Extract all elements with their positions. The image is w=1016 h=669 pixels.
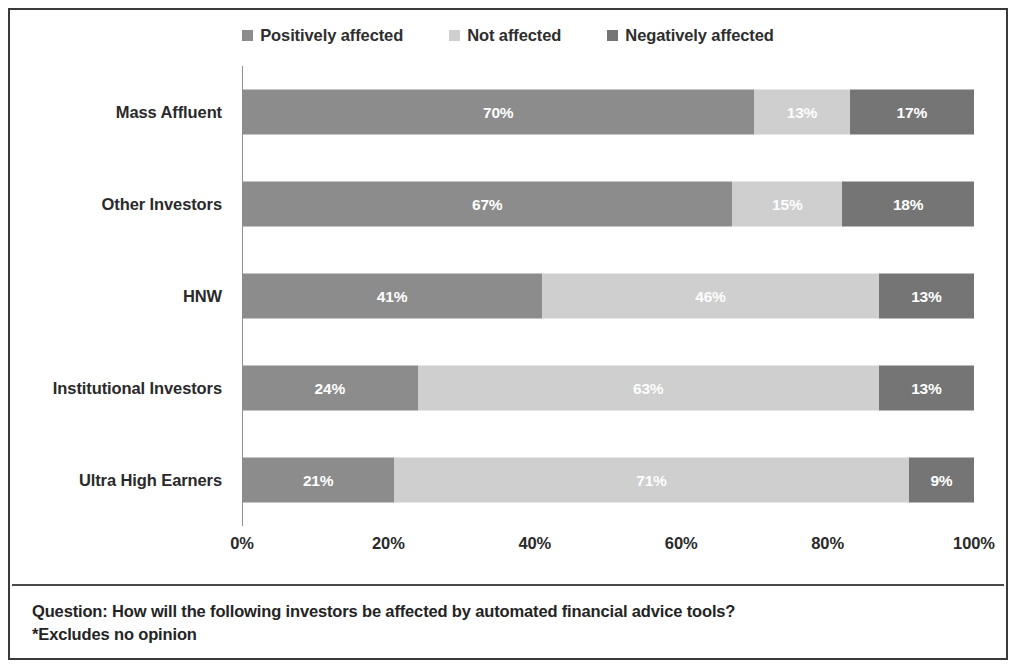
footer-question: Question: How will the following investo…	[32, 600, 986, 623]
bar-segment-value-label: 24%	[315, 379, 345, 397]
legend-swatch-positively-affected	[242, 30, 253, 41]
bar-row: 21%71%9%	[242, 434, 974, 526]
category-label-cell: Mass Affluent	[24, 66, 234, 158]
x-axis-tick-label: 40%	[518, 534, 551, 553]
bar-segment-value-label: 63%	[633, 379, 663, 397]
x-axis-tick-label: 20%	[372, 534, 405, 553]
bar-segment-positively-affected[interactable]: 70%	[242, 90, 754, 135]
bar-segment-not-affected[interactable]: 15%	[732, 182, 842, 227]
legend-item-not-affected[interactable]: Not affected	[449, 26, 561, 45]
legend-label-negatively-affected: Negatively affected	[625, 26, 774, 45]
bar-segment-value-label: 21%	[303, 471, 333, 489]
x-axis-tick-label: 80%	[811, 534, 844, 553]
category-label: HNW	[183, 287, 222, 306]
bar-segment-not-affected[interactable]: 46%	[542, 274, 879, 319]
bar-segment-value-label: 9%	[930, 471, 952, 489]
x-axis-tick-label: 0%	[230, 534, 254, 553]
category-label-cell: HNW	[24, 250, 234, 342]
category-label: Institutional Investors	[53, 379, 222, 398]
x-axis-tick-labels: 0%20%40%60%80%100%	[242, 534, 974, 564]
category-label-cell: Other Investors	[24, 158, 234, 250]
bar-segment-negatively-affected[interactable]: 13%	[879, 366, 974, 411]
plot-area: 70%13%17%67%15%18%41%46%13%24%63%13%21%7…	[242, 66, 974, 526]
bar-segment-value-label: 15%	[772, 195, 802, 213]
chart-frame: Positively affected Not affected Negativ…	[8, 8, 1008, 660]
legend-label-positively-affected: Positively affected	[260, 26, 403, 45]
bar-segment-not-affected[interactable]: 13%	[754, 90, 849, 135]
bar-segment-value-label: 13%	[911, 379, 941, 397]
stacked-bar: 70%13%17%	[242, 90, 974, 135]
bar-segment-value-label: 70%	[483, 103, 513, 121]
bar-segment-not-affected[interactable]: 63%	[418, 366, 879, 411]
bar-segment-value-label: 13%	[911, 287, 941, 305]
bar-segment-negatively-affected[interactable]: 13%	[879, 274, 974, 319]
legend-swatch-not-affected	[449, 30, 460, 41]
bar-rows: 70%13%17%67%15%18%41%46%13%24%63%13%21%7…	[242, 66, 974, 526]
bar-row: 70%13%17%	[242, 66, 974, 158]
legend-item-negatively-affected[interactable]: Negatively affected	[607, 26, 774, 45]
bar-segment-value-label: 13%	[787, 103, 817, 121]
bar-segment-value-label: 71%	[636, 471, 666, 489]
bar-row: 41%46%13%	[242, 250, 974, 342]
category-label-cell: Ultra High Earners	[24, 434, 234, 526]
bar-segment-value-label: 67%	[472, 195, 502, 213]
category-label: Mass Affluent	[116, 103, 222, 122]
y-axis-category-labels: Mass AffluentOther InvestorsHNWInstituti…	[24, 66, 234, 526]
footer-note: *Excludes no opinion	[32, 623, 986, 646]
bar-segment-positively-affected[interactable]: 21%	[242, 458, 394, 503]
stacked-bar: 41%46%13%	[242, 274, 974, 319]
category-label: Other Investors	[102, 195, 222, 214]
stacked-bar: 67%15%18%	[242, 182, 974, 227]
bar-segment-positively-affected[interactable]: 41%	[242, 274, 542, 319]
bar-segment-negatively-affected[interactable]: 18%	[842, 182, 974, 227]
stacked-bar: 21%71%9%	[242, 458, 974, 503]
legend-label-not-affected: Not affected	[467, 26, 561, 45]
stacked-bar: 24%63%13%	[242, 366, 974, 411]
footer-divider	[12, 584, 1004, 586]
bar-row: 24%63%13%	[242, 342, 974, 434]
bar-row: 67%15%18%	[242, 158, 974, 250]
bar-segment-value-label: 17%	[897, 103, 927, 121]
bar-segment-value-label: 41%	[377, 287, 407, 305]
category-label-cell: Institutional Investors	[24, 342, 234, 434]
legend-item-positively-affected[interactable]: Positively affected	[242, 26, 403, 45]
legend-swatch-negatively-affected	[607, 30, 618, 41]
x-axis-tick-label: 100%	[953, 534, 995, 553]
footer-caption: Question: How will the following investo…	[32, 600, 986, 647]
bar-segment-value-label: 46%	[695, 287, 725, 305]
x-axis-tick-label: 60%	[665, 534, 698, 553]
bar-segment-positively-affected[interactable]: 24%	[242, 366, 418, 411]
category-label: Ultra High Earners	[79, 471, 222, 490]
bar-segment-negatively-affected[interactable]: 9%	[909, 458, 974, 503]
chart-legend: Positively affected Not affected Negativ…	[10, 26, 1006, 45]
chart-page: Positively affected Not affected Negativ…	[0, 0, 1016, 669]
bar-segment-positively-affected[interactable]: 67%	[242, 182, 732, 227]
bar-segment-negatively-affected[interactable]: 17%	[850, 90, 974, 135]
bar-segment-value-label: 18%	[893, 195, 923, 213]
bar-segment-not-affected[interactable]: 71%	[394, 458, 909, 503]
